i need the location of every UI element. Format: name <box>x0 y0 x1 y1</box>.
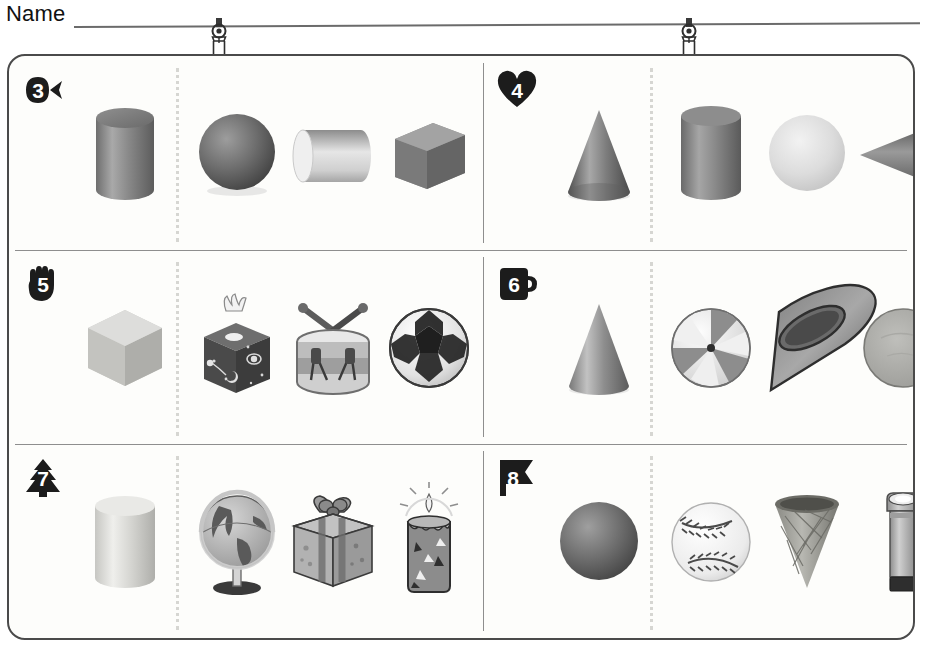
worksheet-card: 3 <box>7 54 915 640</box>
disc-figure <box>857 292 915 404</box>
tissue-box-figure <box>191 292 283 404</box>
answer-choice[interactable] <box>855 483 915 601</box>
question-number-column: 4 <box>483 60 545 248</box>
drum-figure <box>287 292 379 404</box>
answer-choice[interactable] <box>663 289 759 407</box>
answer-choice[interactable] <box>381 95 477 213</box>
answer-choice[interactable] <box>285 483 381 601</box>
prompt-shape-cell <box>545 60 653 248</box>
ice-cream-cone-figure <box>761 486 853 598</box>
tree-badge-icon: 7 <box>21 458 65 498</box>
answer-choice[interactable] <box>189 95 285 213</box>
answer-choice[interactable] <box>855 95 915 213</box>
question-panel-3[interactable]: 3 <box>9 56 483 250</box>
answer-choice[interactable] <box>759 95 855 213</box>
prompt-shape-cell <box>545 448 653 636</box>
baseball-figure <box>665 486 757 598</box>
cube-figure <box>79 292 171 404</box>
sideways-cone-figure <box>857 98 915 210</box>
hanger-clip-icon <box>676 18 702 58</box>
hanger-clip-icon <box>206 18 232 58</box>
question-panel-8[interactable]: 8 <box>483 444 915 638</box>
answer-choice[interactable] <box>285 95 381 213</box>
answer-choice[interactable] <box>759 289 855 407</box>
funnel-cone-figure <box>761 292 853 404</box>
question-number-column: 5 <box>9 254 71 442</box>
worksheet-rows: 3 <box>9 56 913 638</box>
question-number-column: 3 <box>9 60 71 248</box>
answer-choices <box>179 254 483 442</box>
question-panel-4[interactable]: 4 <box>483 56 915 250</box>
answer-choice[interactable] <box>381 289 477 407</box>
worksheet-row: 5 <box>9 250 913 444</box>
cylinder-figure <box>79 486 171 598</box>
answer-choices <box>179 448 483 636</box>
horizontal-cylinder-figure <box>287 98 379 210</box>
question-number-column: 8 <box>483 448 545 636</box>
worksheet-header: Name <box>0 0 926 46</box>
answer-choice[interactable] <box>381 483 477 601</box>
answer-choice[interactable] <box>663 483 759 601</box>
hand-badge-icon: 5 <box>21 264 65 304</box>
heart-badge-icon: 4 <box>495 70 539 110</box>
question-number-column: 7 <box>9 448 71 636</box>
question-panel-5[interactable]: 5 <box>9 250 483 444</box>
prompt-shape-cell <box>71 448 179 636</box>
candle-figure <box>383 486 475 598</box>
question-panel-7[interactable]: 7 <box>9 444 483 638</box>
answer-choice[interactable] <box>759 483 855 601</box>
cone-figure <box>553 292 645 404</box>
flashlight-figure <box>857 486 915 598</box>
answer-choice[interactable] <box>663 95 759 213</box>
mug-badge-icon: 6 <box>495 264 539 304</box>
gift-box-figure <box>287 486 379 598</box>
cylinder-figure <box>665 98 757 210</box>
prompt-shape-cell <box>71 254 179 442</box>
soccer-ball-figure <box>383 292 475 404</box>
question-panel-6[interactable]: 6 <box>483 250 915 444</box>
cylinder-figure <box>79 98 171 210</box>
globe-figure <box>191 486 283 598</box>
prompt-shape-cell <box>71 60 179 248</box>
answer-choice[interactable] <box>855 289 915 407</box>
cube-figure <box>383 98 475 210</box>
flag-badge-icon: 8 <box>495 458 539 498</box>
sphere-figure <box>553 486 645 598</box>
answer-choice[interactable] <box>189 289 285 407</box>
answer-choice[interactable] <box>189 483 285 601</box>
name-label: Name <box>6 1 66 27</box>
answer-choices <box>653 254 915 442</box>
sphere-figure <box>191 98 283 210</box>
question-number-column: 6 <box>483 254 545 442</box>
answer-choices <box>179 60 483 248</box>
sphere-figure <box>761 98 853 210</box>
worksheet-row: 3 <box>9 56 913 250</box>
beach-ball-figure <box>665 292 757 404</box>
answer-choices <box>653 448 915 636</box>
answer-choices <box>653 60 915 248</box>
worksheet-row: 7 <box>9 444 913 638</box>
answer-choice[interactable] <box>285 289 381 407</box>
name-input-line[interactable] <box>74 22 920 28</box>
fish-badge-icon: 3 <box>21 70 65 110</box>
cone-figure <box>553 98 645 210</box>
prompt-shape-cell <box>545 254 653 442</box>
